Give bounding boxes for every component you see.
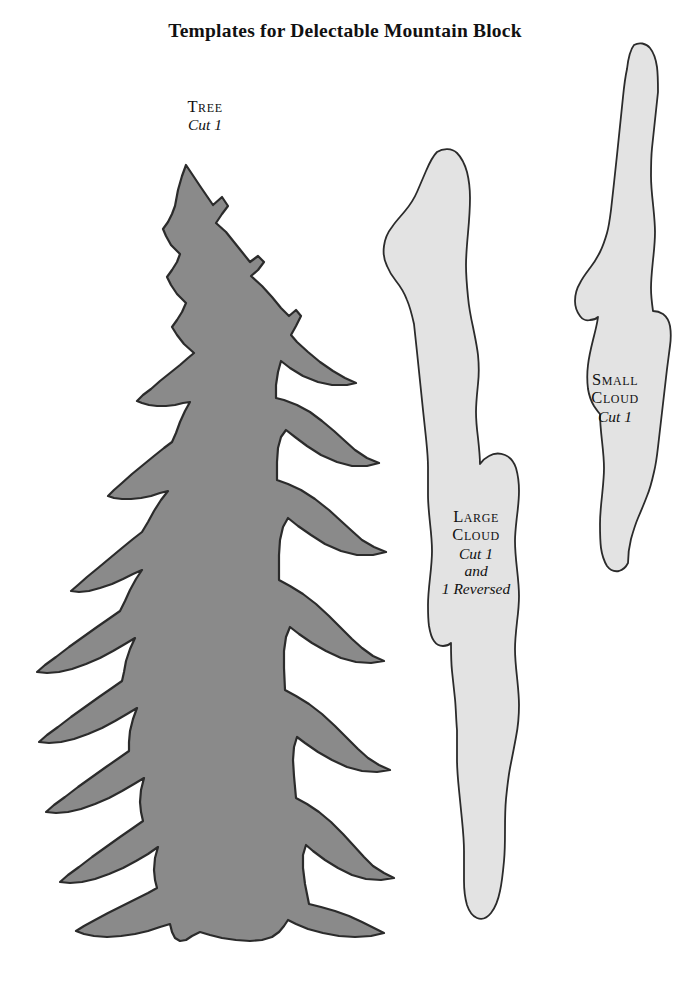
large-cloud-label-title-line2: Cloud	[411, 526, 541, 544]
template-shapes-canvas	[0, 0, 690, 997]
tree-label-cut: Cut 1	[135, 116, 275, 133]
small-cloud-label-title-line2: Cloud	[560, 389, 670, 407]
small-cloud-label-title-line1: Small	[560, 371, 670, 389]
large-cloud-label-cut-2: and	[411, 562, 541, 579]
small-cloud-shape	[575, 43, 671, 571]
small-cloud-template-label: Small Cloud Cut 1	[560, 371, 670, 425]
tree-label-title: Tree	[135, 98, 275, 116]
large-cloud-label-cut-3: 1 Reversed	[411, 580, 541, 597]
fir-tree-shape	[37, 165, 394, 941]
large-cloud-template-label: Large Cloud Cut 1 and 1 Reversed	[411, 508, 541, 597]
small-cloud-label-cut: Cut 1	[560, 408, 670, 425]
large-cloud-label-title-line1: Large	[411, 508, 541, 526]
template-sheet: Templates for Delectable Mountain Block …	[0, 0, 690, 997]
large-cloud-label-cut-1: Cut 1	[411, 545, 541, 562]
tree-template-label: Tree Cut 1	[135, 98, 275, 134]
